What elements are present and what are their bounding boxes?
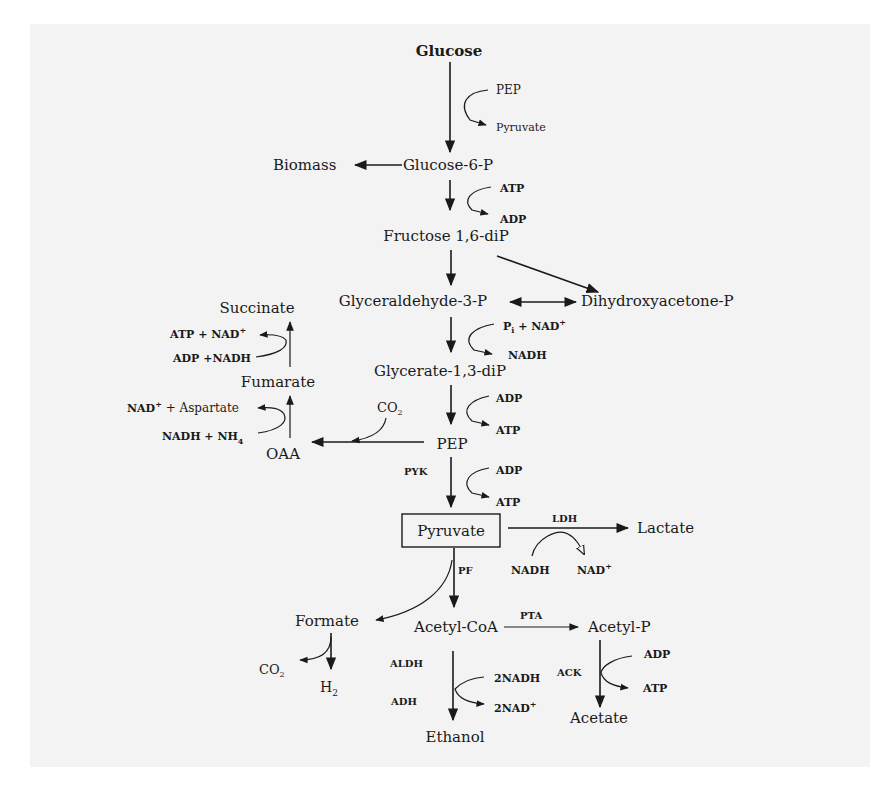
pep-label: PEP [436,435,467,453]
pfk-out-label: ADP [499,213,526,226]
acetylcoa-label: Acetyl-CoA [413,618,498,636]
ack-enzyme-label: ACK [556,667,582,678]
arrow-pfk-cofactor [468,187,491,214]
ldh-enzyme-label: LDH [552,513,577,524]
pyk-enzyme-label: PYK [404,466,428,477]
ack-in-label: ADP [643,648,670,661]
gap-label: Glyceraldehyde-3-P [339,292,487,310]
ppc-co2-label: CO2 [377,400,403,417]
pts-in-label: PEP [496,83,521,97]
arrow-f16dp-to-dhap [497,256,598,292]
frd-in-label: ADP +NADH [172,352,251,365]
frd-out-label: ATP + NAD+ [169,325,246,341]
arrow-formate-to-co2 [300,637,331,660]
arrow-gapdh-cofactor [469,324,494,354]
fumarate-label: Fumarate [241,373,315,391]
pta-enzyme-label: PTA [520,610,542,621]
arrow-ack-cofactor [601,656,632,688]
gapdh-out-label: NADH [508,349,547,362]
h2-label: H2 [320,679,338,698]
arrow-frd-cofactor [256,335,286,357]
biomass-label: Biomass [273,156,336,174]
formate-label: Formate [295,612,359,630]
pgk-in-label: ADP [495,392,522,405]
acetylp-label: Acetyl-P [587,618,651,636]
pyruvate-label: Pyruvate [417,522,485,540]
pfl-enzyme-label: PF [458,565,473,576]
glycerate13dip-label: Glycerate-1,3-diP [374,362,506,380]
ethanol-label: Ethanol [425,728,484,746]
arrow-pts-cofactor [464,90,488,125]
pts-out-label: Pyruvate [496,121,546,134]
oaa-label: OAA [266,445,300,463]
ack-out-label: ATP [642,682,667,695]
glucose-label: Glucose [416,42,483,60]
ldh-in-label: NADH [511,564,550,577]
arrow-adh-cofactor [455,677,484,704]
adh-enzyme-label: ADH [390,696,417,707]
formate-co2-label: CO2 [259,662,285,679]
adh-in-label: 2NADH [494,672,540,685]
aldh-enzyme-label: ALDH [389,658,423,669]
pgk-out-label: ATP [495,424,520,437]
ldh-out-label: NAD+ [577,561,612,577]
arrow-pyk-cofactor [467,468,489,497]
adh-out-label: 2NAD+ [494,699,537,715]
dhap-label: Dihydroxyacetone-P [581,292,734,310]
arrow-ldh-cofactor [532,532,584,556]
gapdh-in-label: Pi + NAD+ [503,317,566,335]
acetate-label: Acetate [569,709,628,727]
pyk-in-label: ADP [495,464,522,477]
aspartate-out-label: NAD+ + Aspartate [127,399,239,415]
fructose16dip-label: Fructose 1,6-diP [383,227,508,245]
metabolic-pathway-diagram: Glucose PEP Pyruvate Glucose-6-P Biomass… [0,0,892,789]
glucose6p-label: Glucose-6-P [403,156,493,174]
pyk-out-label: ATP [495,496,520,509]
arrow-pgk-cofactor [467,396,489,425]
arrow-ppc-co2 [352,418,386,441]
arrow-pyruvate-to-formate [376,560,452,620]
arrow-aspartate-cofactor [258,408,285,433]
succinate-label: Succinate [219,299,294,317]
pfk-in-label: ATP [499,182,524,195]
aspartate-in-label: NADH + NH4 [162,430,244,446]
lactate-label: Lactate [637,519,694,537]
